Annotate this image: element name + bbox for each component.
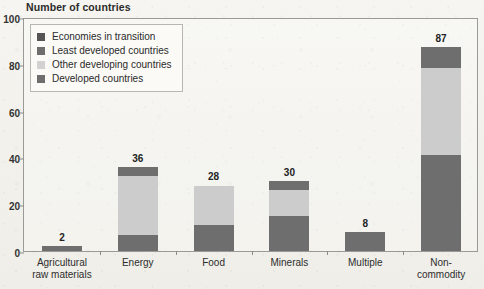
x-axis-tick-mark bbox=[252, 251, 253, 255]
y-axis-tick-mark bbox=[20, 253, 24, 254]
y-axis-tick-mark bbox=[20, 206, 24, 207]
bar-stack[interactable]: 30 bbox=[269, 17, 309, 251]
y-axis-tick-label: 40 bbox=[9, 154, 20, 165]
bar-value-label: 87 bbox=[436, 33, 447, 44]
bar-segment[interactable] bbox=[345, 232, 385, 251]
bar-segment[interactable] bbox=[269, 190, 309, 216]
y-axis-tick-mark bbox=[20, 112, 24, 113]
legend-swatch-icon bbox=[37, 33, 45, 41]
x-axis-tick-mark bbox=[100, 251, 101, 255]
chart-root: Number of countries 020406080100 Agricul… bbox=[0, 0, 484, 289]
bar-stack[interactable]: 8 bbox=[345, 17, 385, 251]
y-axis-tick-mark bbox=[20, 159, 24, 160]
bar-segment[interactable] bbox=[118, 167, 158, 176]
legend-item-label: Economies in transition bbox=[52, 30, 155, 44]
bar-stack[interactable]: 28 bbox=[194, 17, 234, 251]
legend-item-label: Developed countries bbox=[52, 72, 143, 86]
bar-segment[interactable] bbox=[194, 225, 234, 251]
legend-item[interactable]: Developed countries bbox=[37, 72, 172, 86]
x-axis-category-label: Agricultural raw materials bbox=[32, 257, 91, 280]
x-axis-category-label: Food bbox=[202, 257, 225, 269]
legend-item[interactable]: Least developed countries bbox=[37, 44, 172, 58]
bar-segment[interactable] bbox=[118, 235, 158, 251]
y-axis-tick-label: 100 bbox=[3, 14, 20, 25]
bar-stack[interactable]: 87 bbox=[421, 17, 461, 251]
legend-item[interactable]: Other developing countries bbox=[37, 58, 172, 72]
bar-value-label: 36 bbox=[132, 153, 143, 164]
x-axis-category-label: Energy bbox=[122, 257, 154, 269]
legend-swatch-icon bbox=[37, 61, 45, 69]
x-axis-category-label: Non-commodity bbox=[417, 257, 465, 280]
y-axis-tick-label: 60 bbox=[9, 107, 20, 118]
bar-value-label: 30 bbox=[284, 167, 295, 178]
legend-item[interactable]: Economies in transition bbox=[37, 30, 172, 44]
bar-segment[interactable] bbox=[421, 68, 461, 155]
bar-segment[interactable] bbox=[194, 186, 234, 226]
legend-item-label: Other developing countries bbox=[52, 58, 172, 72]
bar-value-label: 2 bbox=[59, 232, 65, 243]
bar-value-label: 8 bbox=[362, 218, 368, 229]
bar-segment[interactable] bbox=[421, 155, 461, 251]
legend-item-label: Least developed countries bbox=[52, 44, 169, 58]
x-axis-category-label: Minerals bbox=[271, 257, 309, 269]
y-axis-tick-label: 20 bbox=[9, 201, 20, 212]
bar-value-label: 28 bbox=[208, 171, 219, 182]
y-axis-tick-label: 80 bbox=[9, 60, 20, 71]
y-axis-tick-mark bbox=[20, 19, 24, 20]
legend-swatch-icon bbox=[37, 75, 45, 83]
x-axis-tick-mark bbox=[176, 251, 177, 255]
bar-segment[interactable] bbox=[421, 47, 461, 68]
x-axis-category-label: Multiple bbox=[348, 257, 382, 269]
bar-segment[interactable] bbox=[269, 216, 309, 251]
x-axis-tick-mark bbox=[327, 251, 328, 255]
x-axis-tick-mark bbox=[403, 251, 404, 255]
bar-segment[interactable] bbox=[118, 176, 158, 235]
bar-segment[interactable] bbox=[42, 246, 82, 251]
page-title: Number of countries bbox=[26, 1, 131, 13]
y-axis-tick-mark bbox=[20, 65, 24, 66]
bar-segment[interactable] bbox=[269, 181, 309, 190]
chart-legend: Economies in transitionLeast developed c… bbox=[30, 24, 183, 92]
legend-swatch-icon bbox=[37, 47, 45, 55]
